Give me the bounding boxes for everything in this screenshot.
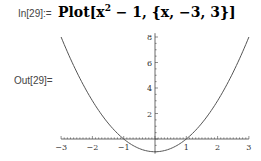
- svg-text:2: 2: [215, 143, 220, 152]
- svg-text:−3: −3: [55, 143, 67, 152]
- svg-text:−2: −2: [87, 143, 99, 152]
- plot-axes: [61, 33, 249, 153]
- svg-text:8: 8: [147, 33, 152, 42]
- svg-text:2: 2: [147, 110, 152, 119]
- svg-text:6: 6: [147, 59, 152, 68]
- svg-text:4: 4: [147, 84, 152, 93]
- svg-text:−1: −1: [118, 143, 130, 152]
- plot-graphic[interactable]: −3−2−11232468: [0, 0, 261, 161]
- svg-text:3: 3: [246, 143, 251, 152]
- svg-text:1: 1: [184, 143, 189, 152]
